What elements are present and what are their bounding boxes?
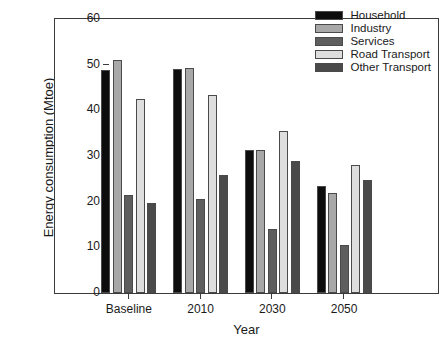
x-tick-mark [128,293,129,299]
bar [268,229,277,293]
bar [245,150,254,293]
legend-item: Industry [315,23,431,34]
bar [136,99,145,293]
y-tick-label: 50 [87,57,100,71]
y-tick-label: 20 [87,194,100,208]
legend-swatch-icon [315,50,343,59]
y-tick-label: 40 [87,102,100,116]
legend: HouseholdIndustryServicesRoad TransportO… [315,10,431,73]
y-tick-label: 10 [87,239,100,253]
legend-label: Industry [350,23,391,34]
bar [101,70,110,293]
legend-item: Other Transport [315,62,431,73]
bar [291,161,300,293]
bar [208,95,217,293]
bar [351,165,360,293]
x-tick-label: 2030 [232,302,312,316]
bar [196,199,205,293]
bar [113,60,122,293]
bar [340,245,349,293]
y-tick-label: 30 [87,148,100,162]
legend-label: Household [350,10,405,21]
legend-item: Household [315,10,431,21]
bar [256,150,265,293]
legend-label: Services [350,36,394,47]
x-tick-label: 2050 [304,302,384,316]
y-tick-mark [103,18,109,19]
bar [363,180,372,293]
bar [124,195,133,293]
legend-swatch-icon [315,24,343,33]
legend-label: Other Transport [350,62,431,73]
legend-swatch-icon [315,63,343,72]
bar [147,203,156,293]
legend-swatch-icon [315,11,343,20]
bar [328,193,337,293]
chart-figure: Energy consumption (Mtoe) 0102030405060 … [0,0,443,349]
legend-label: Road Transport [350,49,429,60]
x-tick-label: Baseline [89,302,169,316]
y-tick-mark [103,64,109,65]
bar [185,68,194,293]
legend-swatch-icon [315,37,343,46]
x-tick-mark [200,293,201,299]
y-tick-label: 60 [87,11,100,25]
legend-item: Road Transport [315,49,431,60]
y-tick-label: 0 [93,285,100,299]
legend-item: Services [315,36,431,47]
bar [173,69,182,293]
bar [317,186,326,293]
x-tick-label: 2010 [161,302,241,316]
bar [279,131,288,293]
x-tick-mark [271,293,272,299]
bar [219,175,228,293]
x-tick-mark [343,293,344,299]
x-axis-title: Year [54,322,439,337]
